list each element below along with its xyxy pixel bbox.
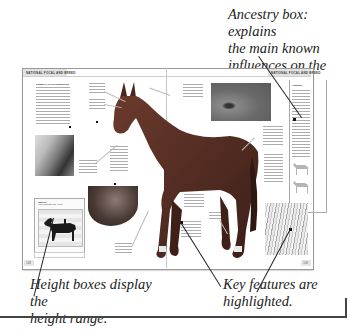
key-features-annotation-line1: Key features are: [223, 276, 343, 293]
height-box: HEIGHT Horse Measurement 15hh - 16.2 hh: [34, 198, 85, 253]
intro-text-block: [36, 87, 70, 125]
height-annotation-line2: height range.: [30, 310, 170, 327]
intro-marker: [69, 126, 71, 128]
ancestry-annotation-line2: the main known: [228, 40, 347, 57]
intro-heading: GENERAL CHARACTERISTICS: [36, 83, 69, 86]
ancestry-marker: [293, 118, 296, 121]
key-features-annotation-line2: highlighted.: [223, 293, 343, 310]
ancestry-thumb-2: [292, 180, 310, 194]
height-box-footer: [34, 252, 85, 258]
back-caption: [263, 126, 283, 146]
right-header-text: NATIONAL FOCAL AND BREED: [271, 71, 321, 75]
mane-tail-caption: [264, 154, 283, 184]
height-annotation-line1: Height boxes display the: [30, 276, 170, 310]
ancestry-thumb-1: [292, 162, 310, 176]
mane-detail-photo: [265, 203, 308, 255]
frame-bottom-rule: [0, 316, 347, 318]
left-header-text: NATIONAL FOCAL AND BREED: [26, 71, 76, 75]
ancestry-text: [292, 90, 310, 158]
right-page-number: 149: [303, 261, 308, 265]
horse-thumbnail-icon: [292, 180, 310, 194]
left-page-number: 148: [26, 261, 31, 265]
ancestry-annotation-line1: Ancestry box: explains: [228, 6, 347, 40]
horse-main-image: [100, 60, 260, 270]
height-annotation: Height boxes display the height range.: [30, 276, 170, 327]
horse-thumbnail-icon: [292, 162, 310, 176]
frame-right-rule: [345, 298, 347, 317]
key-features-annotation: Key features are highlighted.: [223, 276, 343, 310]
ancestry-heading: ANCESTRY: [292, 84, 303, 87]
height-box-subtitle: Horse Measurement 15hh - 16.2 hh: [38, 204, 63, 206]
height-chart: [38, 209, 83, 247]
head-marker: [96, 121, 98, 123]
tail-detail-photo: [35, 135, 74, 176]
